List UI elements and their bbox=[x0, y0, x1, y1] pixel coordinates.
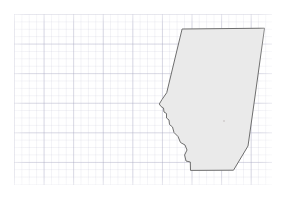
map-canvas[interactable] bbox=[0, 0, 285, 198]
alberta-outline[interactable] bbox=[159, 28, 264, 170]
interior-point-marker bbox=[223, 120, 225, 122]
region-layer bbox=[0, 0, 285, 198]
